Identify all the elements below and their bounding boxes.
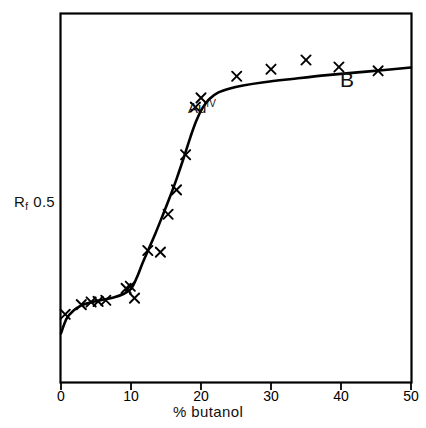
data-point-marker: [266, 65, 275, 74]
series-label-superscript: IV: [206, 98, 215, 109]
plot-border: [61, 14, 412, 383]
data-point-marker: [301, 55, 310, 64]
y-axis-value: 0.5: [30, 193, 55, 210]
data-point-marker: [164, 210, 173, 219]
y-axis-symbol: R: [14, 193, 25, 210]
data-point-marker: [130, 294, 139, 303]
x-axis-title: % butanol: [173, 403, 243, 420]
x-tick-label: 30: [256, 388, 286, 404]
x-axis-ticks: [61, 383, 411, 390]
fit-curve: [61, 68, 411, 334]
data-point-marker: [156, 248, 165, 257]
series-label-base: Au: [188, 99, 206, 116]
x-tick-label: 10: [116, 388, 146, 404]
series-annotation-label: AuIV: [188, 98, 216, 116]
y-axis-label: Rf0.5: [14, 193, 55, 212]
x-tick-label: 50: [396, 388, 426, 404]
figure-panel-b: Rf0.5 % butanol B AuIV 01020304050: [0, 0, 426, 428]
x-tick-label: 20: [186, 388, 216, 404]
x-tick-label: 40: [326, 388, 356, 404]
scatter-plot-canvas: [0, 0, 426, 428]
panel-label: B: [340, 68, 355, 92]
data-point-marker: [232, 72, 241, 81]
axis-frame: [61, 14, 412, 383]
data-point-markers: [61, 55, 383, 319]
x-tick-label: 0: [46, 388, 76, 404]
